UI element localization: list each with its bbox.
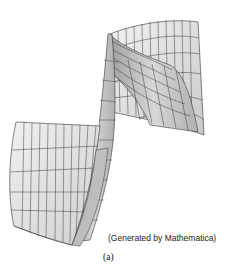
credit-caption: (Generated by Mathematica) bbox=[108, 233, 216, 243]
figure: (Generated by Mathematica) (a) bbox=[0, 0, 236, 265]
subfigure-label: (a) bbox=[103, 252, 114, 262]
surface-plot bbox=[0, 0, 236, 265]
